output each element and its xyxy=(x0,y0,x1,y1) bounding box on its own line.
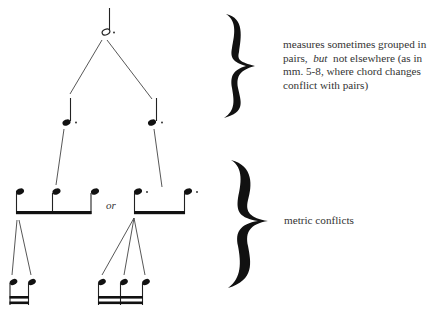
beamed-sixteenth-notes-icon xyxy=(97,278,151,305)
dotted-quarter-note-icon xyxy=(147,98,163,127)
tree-branch-line xyxy=(19,220,31,275)
tree-branch-line xyxy=(154,129,162,187)
dotted-quarter-note-icon xyxy=(61,98,76,127)
annotation-measure-pairs: measures sometimes grouped in pairs, but… xyxy=(283,38,433,92)
dotted-half-note-icon xyxy=(101,8,115,36)
tree-branch-line xyxy=(12,220,17,275)
or-label: or xyxy=(106,199,116,211)
tree-branch-line xyxy=(70,40,102,94)
beamed-eighth-notes-icon xyxy=(15,187,100,214)
annotation-emphasis: but xyxy=(313,52,327,64)
beamed-sixteenth-notes-icon xyxy=(9,278,37,305)
tree-branch-line xyxy=(134,218,145,275)
annotation-metric-conflicts: metric conflicts xyxy=(284,214,424,228)
tree-branch-line xyxy=(56,129,64,185)
curly-brace-icon xyxy=(224,14,255,118)
beamed-dotted-eighth-notes-icon xyxy=(133,187,198,214)
tree-branch-line xyxy=(107,40,152,99)
curly-brace-icon xyxy=(228,160,268,288)
